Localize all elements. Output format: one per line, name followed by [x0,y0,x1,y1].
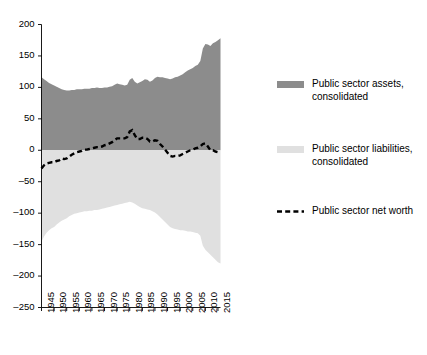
y-tick-label: –250 [13,302,34,312]
y-tick-label: –50 [19,176,35,186]
legend-item-liabilities: Public sector liabilities, consolidated [277,143,413,168]
x-tick-label: 1965 [96,291,106,312]
x-tick-label: 1975 [121,291,131,312]
chart-area-liabilities [42,150,221,263]
chart-area-assets [42,38,221,150]
y-tick-label: 150 [19,50,35,60]
y-tick-label: –200 [13,270,34,280]
y-tick-label: 200 [19,19,35,29]
x-tick-label: 1990 [159,291,169,312]
x-tick-label: 2005 [197,291,207,312]
x-tick-label: 1955 [71,291,81,312]
x-tick-label: 1960 [83,291,93,312]
legend-label: Public sector net worth [312,205,413,218]
legend-item-assets: Public sector assets, consolidated [277,78,404,103]
chart-figure: 200150100500–50–100–150–200–250194519501… [0,0,427,355]
x-tick-label: 2010 [209,291,219,312]
x-tick-label: 1970 [109,291,119,312]
legend-swatch-assets [277,81,304,88]
legend-swatch-net-worth [277,208,304,215]
legend-item-net-worth: Public sector net worth [277,205,413,218]
legend-label: Public sector liabilities, consolidated [312,143,413,168]
legend-swatch-liabilities [277,146,304,153]
y-tick-label: –100 [13,207,34,217]
y-tick-label: –150 [13,239,34,249]
x-tick-label: 1950 [58,291,68,312]
x-tick-label: 1995 [172,291,182,312]
x-tick-label: 1980 [134,291,144,312]
y-tick-label: 100 [19,81,35,91]
y-tick-label: 0 [29,144,34,154]
x-tick-label: 1945 [46,291,56,312]
x-tick-label: 2000 [184,291,194,312]
y-tick-label: 50 [24,113,35,123]
x-tick-label: 2015 [222,291,232,312]
x-tick-label: 1985 [146,291,156,312]
legend-label: Public sector assets, consolidated [312,78,404,103]
